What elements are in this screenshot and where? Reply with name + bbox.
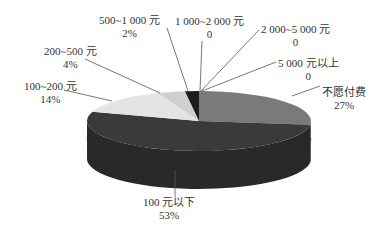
label-2000-5000: 2 000~5 000 元 0 [261,23,330,49]
label-name: 1 000~2 000 元 [175,15,244,28]
label-value: 0 [278,70,339,83]
pie-slice-不愿付费 [199,91,311,125]
leader-line [202,62,276,91]
label-value: 4% [44,58,97,71]
leader-line [200,41,202,91]
label-name: 100~200 元 [24,80,77,93]
label-5000-plus: 5 000 元以上 0 [278,57,339,83]
pie-top-faces [87,91,311,151]
label-value: 2% [99,27,160,40]
label-name: 5 000 元以上 [278,57,339,70]
label-value: 0 [175,28,244,41]
label-value: 0 [261,36,330,49]
leader-line [292,86,320,96]
label-value: 14% [24,93,77,106]
label-name: 500~1 000 元 [99,14,160,27]
label-name: 不愿付费 [322,86,366,99]
label-200-500: 200~500 元 4% [44,45,97,71]
label-unwilling-to-pay: 不愿付费 27% [322,86,366,112]
label-500-1000: 500~1 000 元 2% [99,14,160,40]
label-name: 200~500 元 [44,45,97,58]
label-name: 2 000~5 000 元 [261,23,330,36]
label-value: 53% [143,209,195,222]
label-value: 27% [322,99,366,112]
label-under-100: 100 元以下 53% [143,196,195,222]
label-name: 100 元以下 [143,196,195,209]
label-100-200: 100~200 元 14% [24,80,77,106]
label-1000-2000: 1 000~2 000 元 0 [175,15,244,41]
